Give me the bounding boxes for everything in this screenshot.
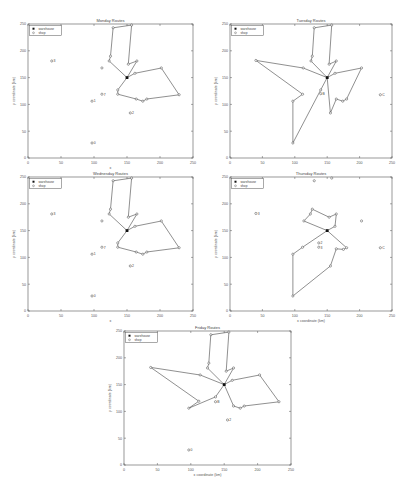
shop-label: 2 [229, 418, 231, 422]
x-tick-label: 50 [59, 314, 63, 318]
shop-marker [329, 112, 331, 114]
shop-marker [346, 98, 348, 100]
legend-shop-label: shop [135, 338, 142, 342]
y-tick-label: 200 [116, 356, 122, 360]
x-axis-label: x [110, 319, 112, 323]
shop-marker [135, 251, 137, 253]
shop-marker [302, 67, 304, 69]
x-tick-label: 50 [155, 468, 159, 472]
shop-marker [334, 225, 336, 227]
shop-marker [131, 24, 133, 26]
shop-marker [117, 89, 119, 91]
shop-marker [214, 401, 216, 403]
warehouse-marker [126, 76, 129, 79]
route-figure: 050100150200250050100150200250Monday Rou… [0, 0, 408, 491]
x-tick-label: 50 [59, 161, 63, 165]
shop-marker [127, 63, 129, 65]
shop-marker [210, 334, 212, 336]
panel-monday: 050100150200250050100150200250Monday Rou… [12, 18, 196, 170]
shop-marker [142, 100, 144, 102]
x-tick-label: 150 [324, 161, 330, 165]
shop-marker [231, 379, 233, 381]
shop-marker [208, 362, 210, 364]
figure-canvas: 050100150200250050100150200250Monday Rou… [0, 0, 408, 491]
y-axis-label: y coordinate (km) [214, 230, 218, 258]
y-tick-label: 250 [222, 175, 228, 179]
y-tick-label: 0 [226, 156, 228, 160]
shop-marker [112, 180, 114, 182]
shop-marker [292, 295, 294, 297]
shop-marker [225, 370, 227, 372]
panel-title: Friday Routes [195, 325, 220, 330]
legend-warehouse-label: warehouse [39, 180, 55, 184]
shop-marker [320, 93, 322, 95]
shop-marker [360, 220, 362, 222]
shop-marker [109, 208, 111, 210]
legend-warehouse-label: warehouse [135, 334, 151, 338]
y-tick-label: 100 [116, 410, 122, 414]
shop-marker [243, 405, 245, 407]
y-axis-label: y coordinate (km) [214, 77, 218, 105]
panel-title: Wednesday Routes [93, 171, 128, 176]
panel-title: Monday Routes [96, 18, 124, 23]
y-tick-label: 100 [222, 103, 228, 107]
shop-marker [301, 93, 303, 95]
panel-tuesday: 050100150200250050100150200250Tuesday Ro… [214, 18, 395, 165]
warehouse-marker [223, 383, 226, 386]
plot-area [28, 24, 193, 158]
x-tick-label: 150 [124, 161, 130, 165]
shop-marker [117, 246, 119, 248]
shop-marker [313, 180, 315, 182]
x-tick-label: 250 [190, 314, 196, 318]
shop-label: 7 [104, 93, 106, 97]
shop-marker [255, 212, 257, 214]
shop-label: 0 [94, 141, 96, 145]
x-tick-label: 250 [389, 314, 395, 318]
shop-marker [346, 247, 348, 249]
shop-marker [91, 253, 93, 255]
shop-marker [142, 253, 144, 255]
warehouse-marker [326, 229, 329, 232]
warehouse-marker [126, 229, 129, 232]
x-tick-label: 0 [27, 314, 29, 318]
shop-marker [136, 213, 138, 215]
shop-label: 3 [54, 212, 56, 216]
shop-marker [112, 27, 114, 29]
x-tick-label: 50 [260, 314, 264, 318]
x-tick-label: 250 [288, 468, 294, 472]
shop-marker [91, 142, 93, 144]
x-tick-label: 200 [357, 314, 363, 318]
shop-marker [328, 63, 330, 65]
shop-marker [214, 396, 216, 398]
shop-marker [108, 213, 110, 215]
shop-marker [91, 295, 93, 297]
legend-warehouse-label: warehouse [39, 27, 55, 31]
shop-marker [131, 177, 133, 179]
legend-warehouse-icon [33, 28, 35, 30]
warehouse-marker [326, 76, 329, 79]
y-tick-label: 250 [20, 22, 26, 26]
shop-marker [292, 142, 294, 144]
shop-marker [188, 449, 190, 451]
shop-label: 7 [104, 246, 106, 250]
x-tick-label: 100 [292, 161, 298, 165]
y-tick-label: 0 [24, 156, 26, 160]
x-tick-label: 200 [157, 314, 163, 318]
y-axis-label: y coordinate (km) [108, 384, 112, 412]
shop-marker [301, 246, 303, 248]
shop-marker [206, 367, 208, 369]
shop-marker [117, 93, 119, 95]
shop-marker [198, 400, 200, 402]
y-tick-label: 0 [24, 309, 26, 313]
shop-marker [342, 100, 344, 102]
shop-marker [101, 246, 103, 248]
shop-label: 1 [94, 252, 96, 256]
shop-marker [255, 59, 257, 61]
y-tick-label: 50 [224, 283, 228, 287]
legend-shop-icon [235, 185, 237, 187]
x-tick-label: 50 [260, 161, 264, 165]
shop-marker [136, 60, 138, 62]
shop-marker [292, 100, 294, 102]
shop-marker [129, 112, 131, 114]
legend-warehouse-label: warehouse [241, 27, 257, 31]
